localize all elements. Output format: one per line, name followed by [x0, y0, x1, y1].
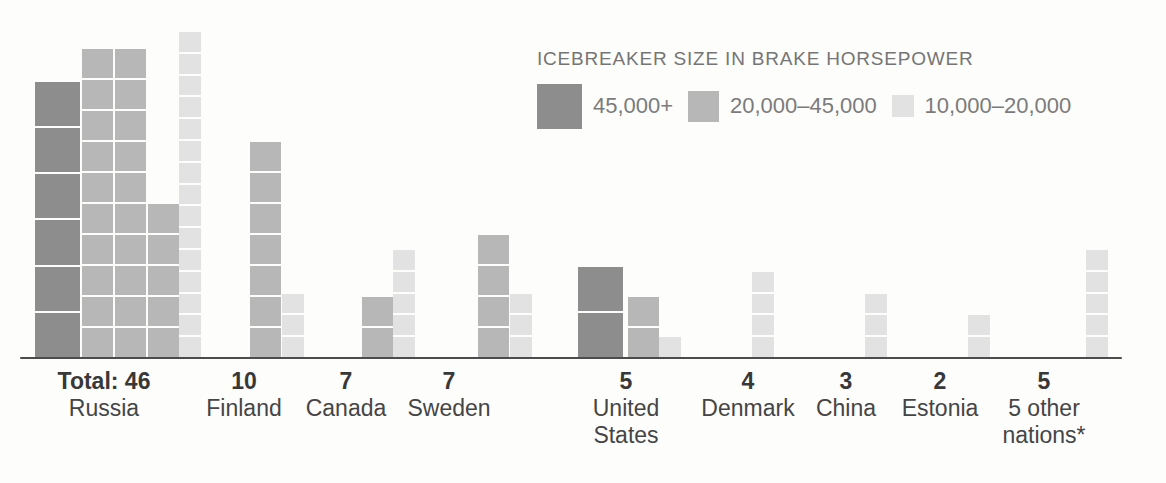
ship-unit-square-medium [250, 204, 281, 233]
ship-unit-square-medium [82, 142, 113, 171]
ship-unit-square-light [1086, 337, 1108, 357]
ship-unit-square-light [752, 294, 774, 314]
ship-unit-square-medium [115, 328, 146, 357]
ship-unit-square-light [393, 315, 415, 335]
ship-unit-square-medium [115, 235, 146, 264]
ship-unit-square-medium [115, 111, 146, 140]
legend-label: 20,000–45,000 [730, 93, 877, 119]
ship-unit-square-dark [35, 82, 80, 126]
ship-unit-square-dark [35, 313, 80, 357]
ship-unit-square-light [179, 76, 201, 96]
ship-unit-square-light [179, 163, 201, 183]
ship-unit-square-medium [82, 328, 113, 357]
ship-column-united-states-light [659, 337, 681, 357]
ship-unit-square-medium [148, 266, 179, 295]
ship-unit-square-medium [250, 328, 281, 357]
ship-unit-square-medium [478, 235, 509, 264]
ship-unit-square-light [179, 32, 201, 52]
ship-unit-square-light [968, 315, 990, 335]
ship-unit-square-light [1086, 272, 1108, 292]
legend-title: ICEBREAKER SIZE IN BRAKE HORSEPOWER [537, 48, 974, 70]
ship-unit-square-light [752, 337, 774, 357]
ship-unit-square-light [393, 250, 415, 270]
ship-unit-square-medium [478, 328, 509, 357]
ship-unit-square-medium [82, 297, 113, 326]
ship-unit-square-light [1086, 315, 1108, 335]
ship-column-canada-light [393, 250, 415, 357]
ship-unit-square-medium [82, 111, 113, 140]
ship-column-other-nations-light [1086, 250, 1108, 357]
ship-unit-square-medium [362, 297, 393, 326]
ship-unit-square-light [752, 315, 774, 335]
ship-unit-square-medium [82, 235, 113, 264]
ship-unit-square-light [393, 272, 415, 292]
legend-item-20000-45000: 20,000–45,000 [688, 83, 877, 129]
ship-unit-square-light [752, 272, 774, 292]
ship-unit-square-light [179, 272, 201, 292]
ship-unit-square-medium [82, 204, 113, 233]
ship-unit-square-light [1086, 250, 1108, 270]
ship-unit-square-medium [115, 49, 146, 78]
ship-column-sweden-medium [478, 235, 509, 357]
ship-unit-square-light [179, 315, 201, 335]
icebreaker-unit-chart: ICEBREAKER SIZE IN BRAKE HORSEPOWER 45,0… [0, 0, 1166, 483]
ship-unit-square-medium [628, 328, 659, 357]
ship-column-sweden-light [510, 294, 532, 357]
ship-unit-square-medium [115, 204, 146, 233]
ship-column-finland-light [282, 294, 304, 357]
ship-unit-square-light [1086, 294, 1108, 314]
ship-column-russia-medium [115, 49, 146, 357]
legend-label: 45,000+ [593, 93, 673, 119]
ship-unit-square-light [179, 54, 201, 74]
ship-unit-square-medium [82, 80, 113, 109]
ship-unit-square-light [865, 337, 887, 357]
legend-swatch-light [892, 95, 914, 117]
ship-unit-square-medium [250, 297, 281, 326]
ship-unit-square-dark [35, 267, 80, 311]
ship-column-estonia-light [968, 315, 990, 357]
ship-unit-square-light [282, 337, 304, 357]
ship-column-russia-medium [82, 49, 113, 357]
legend-label: 10,000–20,000 [925, 93, 1072, 119]
ship-column-united-states-dark [578, 267, 623, 357]
ship-unit-square-light [510, 337, 532, 357]
ship-unit-square-light [510, 315, 532, 335]
ship-column-united-states-medium [628, 297, 659, 357]
ship-unit-square-light [179, 206, 201, 226]
ship-unit-square-light [179, 185, 201, 205]
ship-unit-square-medium [250, 173, 281, 202]
ship-column-canada-medium [362, 297, 393, 357]
ship-unit-square-light [179, 141, 201, 161]
ship-unit-square-medium [148, 235, 179, 264]
ship-unit-square-light [393, 337, 415, 357]
ship-unit-square-dark [35, 174, 80, 218]
ship-unit-square-medium [82, 266, 113, 295]
ship-column-denmark-light [752, 272, 774, 357]
ship-unit-square-medium [115, 266, 146, 295]
ship-unit-square-medium [478, 266, 509, 295]
ship-unit-square-light [179, 119, 201, 139]
ship-unit-square-medium [115, 142, 146, 171]
country-total-other-nations: 5 [934, 367, 1154, 395]
ship-unit-square-dark [578, 267, 623, 311]
ship-unit-square-medium [82, 173, 113, 202]
ship-unit-square-light [393, 294, 415, 314]
ship-unit-square-medium [250, 235, 281, 264]
ship-column-russia-medium [148, 204, 179, 357]
ship-unit-square-medium [82, 49, 113, 78]
ship-unit-square-light [510, 294, 532, 314]
ship-unit-square-light [179, 97, 201, 117]
ship-column-finland-medium [250, 142, 281, 357]
ship-unit-square-medium [362, 328, 393, 357]
ship-unit-square-medium [478, 297, 509, 326]
ship-column-russia-dark [35, 82, 80, 357]
ship-unit-square-light [659, 337, 681, 357]
country-name-other-nations: 5 othernations* [934, 395, 1154, 449]
legend-swatch-medium [688, 91, 719, 122]
ship-unit-square-medium [115, 173, 146, 202]
ship-unit-square-light [179, 337, 201, 357]
country-label-other-nations: 55 othernations* [934, 367, 1154, 449]
ship-unit-square-light [179, 228, 201, 248]
ship-unit-square-dark [578, 313, 623, 357]
ship-unit-square-dark [35, 220, 80, 264]
